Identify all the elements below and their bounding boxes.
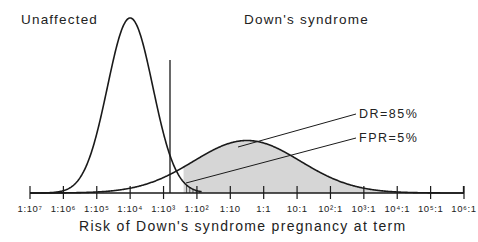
x-tick-label: 10⁶:1 (451, 203, 476, 214)
x-tick-label: 1:10² (185, 203, 210, 214)
shaded-areas (184, 141, 464, 194)
downs-syndrome-label: Down's syndrome (244, 12, 369, 27)
x-tick-label: 1:10⁵ (84, 203, 109, 214)
x-tick-label: 1:10⁷ (18, 203, 43, 214)
dr-leader-line (238, 114, 356, 147)
fpr-annotation: FPR=5% (359, 131, 418, 145)
x-tick-label: 1:1 (256, 203, 271, 214)
x-axis-title: Risk of Down's syndrome pregnancy at ter… (79, 218, 407, 234)
unaffected-curve (30, 18, 202, 193)
dr-annotation: DR=85% (359, 107, 418, 121)
x-tick-label: 1:10⁶ (51, 203, 76, 214)
x-tick-label: 1:10⁴ (117, 203, 143, 214)
detection-rate-area (184, 141, 464, 194)
distribution-chart: 1:10⁷1:10⁶1:10⁵1:10⁴1:10³1:10²1:101:110:… (0, 0, 478, 242)
x-tick-label: 1:10 (220, 203, 241, 214)
x-tick-label: 10:1 (287, 203, 308, 214)
unaffected-label: Unaffected (21, 12, 98, 27)
x-tick-label: 1:10³ (151, 203, 176, 214)
x-tick-label: 10⁴:1 (384, 203, 410, 214)
x-tick-label: 10²:1 (318, 203, 343, 214)
x-tick-label: 10³:1 (352, 203, 377, 214)
x-tick-label: 10⁵:1 (418, 203, 443, 214)
